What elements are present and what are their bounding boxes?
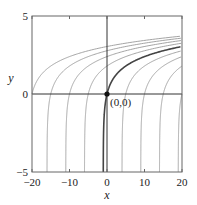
x-tick-label: 10 (139, 176, 151, 188)
solution-curve (32, 36, 180, 94)
x-tick-label: 0 (104, 176, 110, 188)
y-tick-label: 5 (23, 10, 29, 22)
y-tick-label: −5 (16, 166, 28, 178)
x-axis-label: x (103, 188, 110, 202)
x-tick-label: −10 (61, 176, 79, 188)
chart: −20−1001020−505 (0,0) x y (0, 0, 197, 205)
y-tick-label: 0 (23, 88, 29, 100)
solution-curve (122, 51, 181, 172)
origin-point-marker (104, 91, 109, 96)
x-tick-label: 20 (177, 176, 189, 188)
y-axis-label: y (7, 71, 14, 85)
origin-label: (0,0) (110, 96, 131, 109)
solution-curve (178, 94, 182, 172)
